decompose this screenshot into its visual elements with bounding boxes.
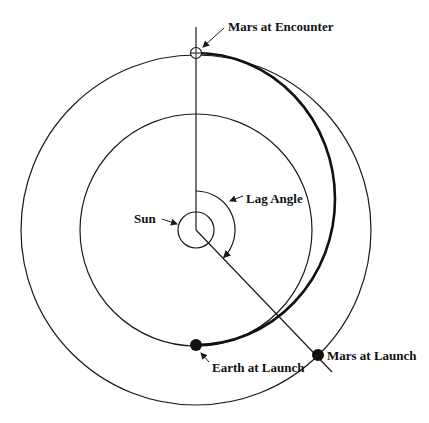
earth-launch-arrow xyxy=(201,353,209,362)
lag-angle-arrow xyxy=(230,196,243,201)
mars-at-launch-dot xyxy=(312,349,324,361)
sun-label: Sun xyxy=(134,211,156,226)
earth-at-launch-label: Earth at Launch xyxy=(212,360,305,375)
mars-at-encounter-marker xyxy=(190,47,202,59)
mars-encounter-arrow xyxy=(203,28,224,47)
lag-angle-label: Lag Angle xyxy=(246,191,303,206)
launch-radial-line xyxy=(196,230,332,372)
sun-arrow xyxy=(162,219,177,224)
mars-at-launch-label: Mars at Launch xyxy=(327,348,417,363)
earth-at-launch-dot xyxy=(190,339,202,351)
mars-at-encounter-label: Mars at Encounter xyxy=(228,19,334,34)
hohmann-transfer-diagram: Mars at Encounter Lag Angle Sun Earth at… xyxy=(0,0,429,423)
